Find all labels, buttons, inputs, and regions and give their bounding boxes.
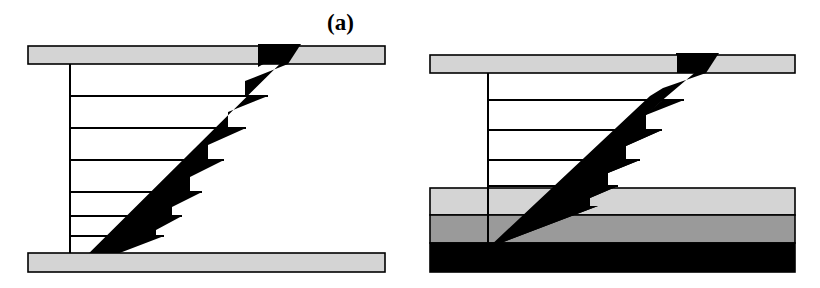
panel-b-graphic	[410, 0, 820, 288]
panel-label-a: (a)	[327, 11, 354, 34]
substrate-layer-gray-b	[430, 215, 795, 243]
substrate-layer-black-b	[430, 243, 795, 272]
panel-b: (b)	[410, 0, 820, 288]
panel-a-graphic	[0, 0, 410, 288]
figure-root: (a)	[0, 0, 820, 288]
top-plate-a	[28, 46, 385, 64]
panel-a: (a)	[0, 0, 410, 288]
substrate-layer-light-b	[430, 188, 795, 215]
top-plate-b	[430, 55, 795, 73]
bottom-plate-a	[28, 253, 385, 272]
velocity-wedge-a	[70, 44, 300, 272]
